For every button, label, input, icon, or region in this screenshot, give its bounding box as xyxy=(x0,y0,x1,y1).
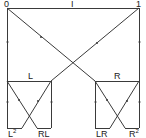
L-diagonal-to-L2 xyxy=(22,81,51,128)
diagonal-to-R xyxy=(7,8,95,81)
arrow-dot xyxy=(139,101,141,103)
L-diagonal-to-RL xyxy=(7,81,37,128)
label-interval-I: I xyxy=(71,0,74,9)
arrow-dot xyxy=(126,100,128,102)
label-R-squared: R2 xyxy=(129,128,140,138)
label-zero: 0 xyxy=(4,0,9,9)
arrow-dot xyxy=(18,99,20,101)
label-one: 1 xyxy=(136,0,141,9)
label-RL: RL xyxy=(38,129,50,138)
label-L-squared: L2 xyxy=(8,128,17,138)
label-R: R xyxy=(114,71,121,81)
arrow-dot xyxy=(95,101,97,103)
arrow-dot xyxy=(96,42,98,44)
arrow-dot xyxy=(37,100,39,102)
arrow-dot xyxy=(51,101,53,103)
arrow-dot xyxy=(139,41,141,43)
R-diagonal-to-R2 xyxy=(95,81,125,128)
label-L: L xyxy=(28,71,33,81)
arrow-dot xyxy=(40,36,42,38)
R-diagonal-to-LR xyxy=(110,81,139,128)
arrow-dot xyxy=(106,99,108,101)
interval-subdivision-diagram: 0 I 1 L R L2 RL LR R2 xyxy=(0,0,146,138)
arrow-dot xyxy=(7,101,9,103)
arrow-dot xyxy=(7,41,9,43)
label-LR: LR xyxy=(96,129,108,138)
diagonal-to-L xyxy=(51,8,139,81)
